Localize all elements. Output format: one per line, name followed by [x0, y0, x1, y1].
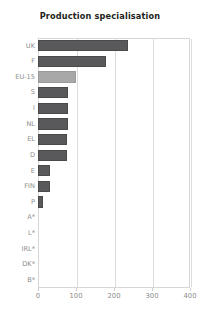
bar-E[interactable]	[38, 165, 50, 176]
chart-title: Production specialisation	[0, 11, 200, 21]
bar-row	[38, 56, 190, 67]
bars-container	[38, 38, 190, 288]
bar-row	[38, 212, 190, 223]
bar-row	[38, 103, 190, 114]
x-tick-label-200: 200	[108, 293, 121, 300]
category-label-F: F	[0, 58, 35, 65]
bar-row	[38, 40, 190, 51]
bar-row	[38, 259, 190, 270]
bar-row	[38, 150, 190, 161]
x-tick-label-0: 0	[36, 293, 40, 300]
category-label-Bstar: B*	[0, 277, 35, 284]
bar-EU-15[interactable]	[38, 71, 76, 82]
bar-row	[38, 118, 190, 129]
category-label-EL: EL	[0, 136, 35, 143]
category-label-IRLstar: IRL*	[0, 246, 35, 253]
axis-tick-300	[152, 288, 153, 291]
bar-EL[interactable]	[38, 134, 67, 145]
category-label-Lstar: L*	[0, 230, 35, 237]
bar-D[interactable]	[38, 150, 67, 161]
bar-row	[38, 228, 190, 239]
category-axis-labels: UKFEU-15SINLELDEFINPA*L*IRL*DK*B*	[0, 38, 35, 288]
gridline-400	[191, 39, 192, 287]
axis-tick-200	[114, 288, 115, 291]
production-specialisation-chart: Production specialisation UKFEU-15SINLEL…	[0, 0, 200, 328]
value-axis-labels: 0100200300400	[0, 293, 200, 307]
bar-row	[38, 165, 190, 176]
category-label-FIN: FIN	[0, 183, 35, 190]
bar-I[interactable]	[38, 103, 68, 114]
bar-P[interactable]	[38, 196, 43, 207]
bar-F[interactable]	[38, 56, 106, 67]
category-label-I: I	[0, 105, 35, 112]
bar-row	[38, 181, 190, 192]
axis-tick-0	[38, 288, 39, 291]
category-label-EU-15: EU-15	[0, 74, 35, 81]
category-label-S: S	[0, 89, 35, 96]
bar-FIN[interactable]	[38, 181, 50, 192]
bar-row	[38, 275, 190, 286]
category-label-E: E	[0, 168, 35, 175]
bar-row	[38, 196, 190, 207]
axis-tick-400	[190, 288, 191, 291]
x-tick-label-100: 100	[70, 293, 83, 300]
bar-row	[38, 71, 190, 82]
category-label-NL: NL	[0, 121, 35, 128]
axis-tick-100	[76, 288, 77, 291]
x-tick-label-400: 400	[184, 293, 197, 300]
category-label-D: D	[0, 152, 35, 159]
bar-row	[38, 87, 190, 98]
bar-UK[interactable]	[38, 40, 128, 51]
category-label-UK: UK	[0, 43, 35, 50]
bar-NL[interactable]	[38, 118, 68, 129]
bar-S[interactable]	[38, 87, 68, 98]
category-label-P: P	[0, 199, 35, 206]
x-tick-label-300: 300	[146, 293, 159, 300]
category-label-Astar: A*	[0, 214, 35, 221]
bar-row	[38, 243, 190, 254]
category-label-DKstar: DK*	[0, 261, 35, 268]
bar-row	[38, 134, 190, 145]
